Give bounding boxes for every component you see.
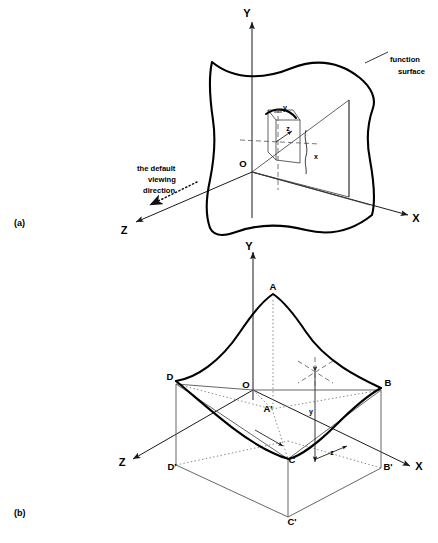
panel-a: Y X Z O y z x function surface the defau… <box>14 7 425 236</box>
panel-a-function-surface-label-line1: function <box>390 55 420 64</box>
panel-b-vertex-c: C <box>289 454 296 465</box>
panel-b-x-axis-label: X <box>415 460 423 472</box>
panel-a-function-surface-leader <box>365 52 388 63</box>
panel-a-x-axis-label: X <box>412 212 420 224</box>
panel-b-x-measure-arrow <box>255 430 283 446</box>
panel-b-z-axis <box>133 390 253 459</box>
panel-b-surface-front-curve <box>176 381 381 459</box>
panel-b-vertex-b: B <box>385 377 392 388</box>
panel-b-y-coord-label: y <box>309 408 313 416</box>
panel-b-origin-label: O <box>242 379 249 390</box>
panel-b-z-axis-label: Z <box>119 456 126 468</box>
panel-b-bottom-edge-dc <box>176 465 288 517</box>
panel-b-vertex-c-prime: C' <box>287 516 296 527</box>
panel-b-vertex-a: A <box>270 281 277 292</box>
figure-root: Y X Z O y z x function surface the defau… <box>0 0 438 543</box>
panel-b-hidden-aprime-c <box>272 409 288 459</box>
panel-a-origin-label: O <box>239 158 246 169</box>
panel-a-viewing-label-line1: the default <box>137 164 176 173</box>
panel-b-point-marker-icon <box>298 357 333 388</box>
panel-a-sample-box <box>266 109 300 163</box>
panel-a-y-axis-label: Y <box>243 7 251 19</box>
panel-b-vertex-d: D <box>167 371 174 382</box>
panel-a-z-coord-label: z <box>286 125 290 132</box>
panel-a-viewing-label-line3: direction <box>143 186 175 195</box>
panel-a-x-measure-bracket <box>305 130 307 174</box>
panel-b-y-axis-label: Y <box>245 240 253 252</box>
panel-b-vertex-b-prime: B' <box>383 461 392 472</box>
panel-b-vertex-a-prime: A' <box>263 403 272 414</box>
panel-b-vertex-d-prime: D' <box>167 461 176 472</box>
panel-b-top-plane-edge-cb <box>288 390 381 459</box>
panel-a-caption: (a) <box>14 218 25 228</box>
panel-b: Y X Z O A B C D A' B' C' D' y z (b) <box>14 240 423 527</box>
technical-diagram-svg: Y X Z O y z x function surface the defau… <box>0 0 438 543</box>
panel-b-caption: (b) <box>14 508 26 518</box>
panel-a-y-coord-label: y <box>283 104 287 112</box>
panel-a-z-axis-label: Z <box>121 224 128 236</box>
panel-a-box-bottom-front <box>276 160 300 163</box>
panel-b-surface-back-curve <box>176 294 381 388</box>
panel-b-z-coord-label: z <box>330 449 334 456</box>
panel-a-viewing-label-line2: viewing <box>148 175 176 184</box>
panel-a-x-coord-label: x <box>314 153 318 160</box>
panel-a-function-surface-label-line2: surface <box>398 67 425 76</box>
panel-b-bottom-edge-cb <box>288 468 381 517</box>
